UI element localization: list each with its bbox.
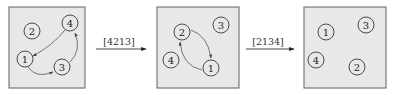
panel-state-3: 1 3 4 2 xyxy=(304,7,386,88)
node-label: 2 xyxy=(354,62,360,73)
transition-1: [4213] xyxy=(96,36,146,49)
node-label: 1 xyxy=(22,54,28,65)
panel-box xyxy=(304,7,386,88)
node-label: 3 xyxy=(363,20,369,31)
node-label: 2 xyxy=(29,26,35,37)
panel-state-2: 2 3 4 1 xyxy=(157,7,239,88)
node-label: 3 xyxy=(218,20,224,31)
permutation-diagram: 1 2 3 4 [4213] 2 3 xyxy=(0,0,397,95)
node-label: 4 xyxy=(313,55,319,66)
transition-label: [2134] xyxy=(252,36,284,47)
transition-2: [2134] xyxy=(246,36,294,49)
node-label: 3 xyxy=(59,62,65,73)
transition-label: [4213] xyxy=(103,36,135,47)
node-label: 2 xyxy=(179,27,185,38)
node-label: 4 xyxy=(67,18,73,29)
node-label: 4 xyxy=(168,55,174,66)
panel-state-1: 1 2 3 4 xyxy=(9,7,85,88)
node-label: 1 xyxy=(208,63,214,74)
node-label: 1 xyxy=(323,27,329,38)
